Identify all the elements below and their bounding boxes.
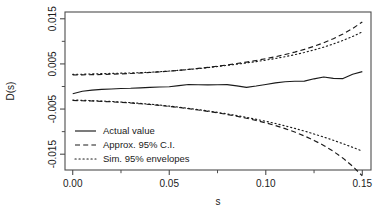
legend-label: Actual value [103, 125, 155, 136]
chart-figure: 0.000.050.100.15-0.015-0.0050.0050.015sD… [0, 0, 383, 217]
y-tick-label: 0.005 [47, 51, 58, 76]
x-axis-title: s [216, 196, 221, 207]
y-tick-label: 0.015 [47, 6, 58, 31]
y-tick-label: -0.015 [47, 140, 58, 169]
chart-svg: 0.000.050.100.15-0.015-0.0050.0050.015sD… [0, 0, 383, 217]
x-tick-label: 0.05 [160, 178, 180, 189]
x-tick-label: 0.00 [63, 178, 83, 189]
legend-label: Sim. 95% envelopes [103, 153, 190, 164]
y-axis-title: D(s) [5, 82, 16, 101]
y-tick-label: -0.005 [47, 94, 58, 123]
legend-label: Approx. 95% C.I. [103, 139, 175, 150]
x-tick-label: 0.10 [256, 178, 276, 189]
x-tick-label: 0.15 [353, 178, 373, 189]
